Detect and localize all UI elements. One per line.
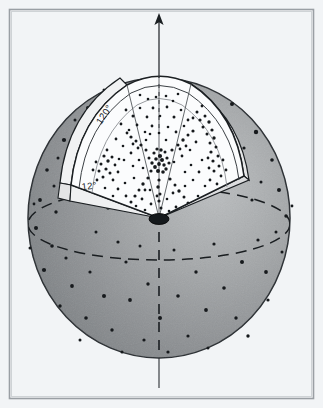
label-12-degrees: 12° [81,179,97,192]
figure-root: 120° 12° [0,0,323,408]
wedge-end-cap-left [58,183,71,201]
annotation-12-degrees: 12° [81,179,97,192]
sphere-wedge-diagram: 120° 12° [0,0,323,408]
observer-origin [149,214,169,225]
